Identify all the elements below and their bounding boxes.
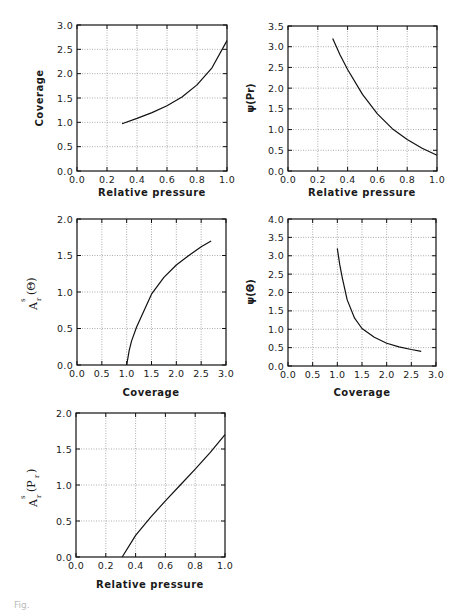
y-label-arg-open: (P <box>25 480 38 492</box>
y-tick-label: 0.5 <box>268 342 284 353</box>
y-tick-label: 2.0 <box>57 214 73 225</box>
y-tick-label: 2.5 <box>57 44 73 55</box>
y-tick-label: 1.0 <box>57 287 73 298</box>
x-tick-label: 3.0 <box>218 368 234 379</box>
x-tick-label: 0.6 <box>369 174 385 185</box>
y-tick-label: 0.5 <box>57 141 73 152</box>
y-axis-label: ψ(Θ) <box>245 279 256 305</box>
x-tick-label: 0.6 <box>157 560 173 571</box>
x-tick-label: 0.4 <box>128 560 144 571</box>
y-axis-label: Coverage <box>34 69 45 126</box>
y-tick-label: 0.0 <box>268 361 284 372</box>
y-tick-label: 1.5 <box>57 250 73 261</box>
x-axis-label: Relative pressure <box>98 187 206 198</box>
y-axis-label: A s r (P r ) <box>19 469 43 508</box>
x-tick-label: 1.0 <box>429 174 445 185</box>
y-tick-label: 3.5 <box>268 21 284 32</box>
y-tick-label: 1.5 <box>268 305 284 316</box>
x-tick-label: 0.4 <box>129 174 145 185</box>
y-tick-label: 0.0 <box>57 360 73 371</box>
y-label-sup: s <box>19 495 27 499</box>
chart-coverage-vs-pressure: 0.00.20.40.60.81.00.00.51.01.52.02.53.0 <box>57 20 235 186</box>
plot-frame <box>288 26 437 171</box>
x-tick-label: 1.0 <box>119 368 135 379</box>
x-tick-label: 0.8 <box>187 560 203 571</box>
x-tick-label: 2.0 <box>379 369 395 380</box>
x-tick-label: 1.0 <box>217 560 233 571</box>
y-tick-label: 0.0 <box>57 166 73 177</box>
y-label-arg-sub: r <box>33 474 41 478</box>
y-tick-label: 3.0 <box>57 20 73 31</box>
x-tick-label: 0.5 <box>305 369 321 380</box>
x-tick-label: 0.2 <box>98 560 114 571</box>
y-tick-label: 3.0 <box>268 250 284 261</box>
x-tick-label: 1.0 <box>329 369 345 380</box>
y-label-arg: (Θ) <box>25 277 38 295</box>
x-axis-label: Coverage <box>122 387 179 398</box>
y-tick-label: 3.0 <box>268 41 284 52</box>
x-tick-label: 2.5 <box>403 369 419 380</box>
data-curve <box>122 435 225 557</box>
y-tick-label: 0.0 <box>268 166 284 177</box>
data-curve <box>127 241 211 365</box>
y-tick-label: 4.0 <box>268 214 284 225</box>
data-curve <box>337 248 421 351</box>
y-tick-label: 2.5 <box>268 269 284 280</box>
y-tick-label: 1.0 <box>268 324 284 335</box>
x-tick-label: 1.5 <box>143 368 159 379</box>
x-axis-label: Relative pressure <box>308 187 416 198</box>
x-tick-label: 0.5 <box>94 368 110 379</box>
x-tick-label: 0.6 <box>159 174 175 185</box>
chart-psi-vs-pressure: 0.00.20.40.60.81.00.00.51.01.52.02.53.03… <box>268 21 445 186</box>
x-tick-label: 1.0 <box>219 174 235 185</box>
y-label-sub: r <box>35 297 43 301</box>
y-tick-label: 2.0 <box>268 287 284 298</box>
x-tick-label: 0.8 <box>189 174 205 185</box>
x-tick-label: 2.5 <box>193 368 209 379</box>
y-tick-label: 2.0 <box>56 408 72 419</box>
y-tick-label: 1.5 <box>268 103 284 114</box>
y-label-arg-close: ) <box>25 469 38 473</box>
plot-frame <box>76 413 225 557</box>
y-tick-label: 0.5 <box>56 516 72 527</box>
y-tick-label: 1.0 <box>57 117 73 128</box>
y-axis-label: A s r (Θ) <box>19 277 43 311</box>
x-tick-label: 0.8 <box>399 174 415 185</box>
x-tick-label: 1.5 <box>354 369 370 380</box>
y-tick-label: 2.0 <box>57 68 73 79</box>
y-tick-label: 2.0 <box>268 83 284 94</box>
y-tick-label: 0.5 <box>57 323 73 334</box>
y-label-base: A <box>27 301 40 311</box>
y-label-sub: r <box>35 494 43 498</box>
y-tick-label: 1.5 <box>56 444 72 455</box>
x-tick-label: 2.0 <box>168 368 184 379</box>
y-tick-label: 1.0 <box>56 480 72 491</box>
data-curve <box>122 41 227 124</box>
x-tick-label: 3.0 <box>428 369 444 380</box>
y-axis-label: ψ(Pr) <box>245 83 256 112</box>
chart-area-vs-coverage: 0.00.51.01.52.02.53.00.00.51.01.52.0 <box>57 214 234 380</box>
y-tick-label: 3.5 <box>268 232 284 243</box>
figure-canvas: 0.00.20.40.60.81.00.00.51.01.52.02.53.0 … <box>0 0 463 610</box>
y-tick-label: 0.0 <box>56 552 72 563</box>
chart-psi-vs-coverage: 0.00.51.01.52.02.53.00.00.51.01.52.02.53… <box>268 214 444 381</box>
y-tick-label: 1.0 <box>268 124 284 135</box>
x-axis-label: Relative pressure <box>96 579 204 590</box>
y-tick-label: 2.5 <box>268 62 284 73</box>
y-label-base: A <box>27 498 40 508</box>
x-tick-label: 0.2 <box>310 174 326 185</box>
data-curve <box>333 38 437 155</box>
chart-area-vs-pressure: 0.00.20.40.60.81.00.00.51.01.52.0 <box>56 408 233 572</box>
figure-caption: Fig. <box>14 600 30 610</box>
y-tick-label: 0.5 <box>268 145 284 156</box>
x-tick-label: 0.2 <box>99 174 115 185</box>
y-label-sup: s <box>19 298 27 302</box>
x-tick-label: 0.4 <box>340 174 356 185</box>
x-axis-label: Coverage <box>333 387 390 398</box>
y-tick-label: 1.5 <box>57 93 73 104</box>
